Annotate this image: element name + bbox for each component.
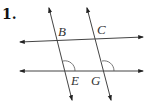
left-transversal [49, 8, 72, 100]
parallel-lines-diagram: B C E G [0, 0, 152, 105]
label-E: E [70, 73, 79, 88]
label-B: B [58, 24, 66, 39]
angle-arc-G [102, 61, 114, 71]
label-G: G [91, 73, 101, 88]
label-C: C [97, 22, 106, 37]
top-line [20, 37, 143, 42]
